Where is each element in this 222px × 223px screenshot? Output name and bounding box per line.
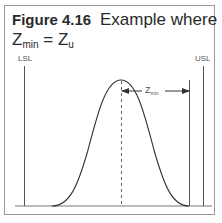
normal-curve bbox=[52, 80, 189, 206]
distribution-diagram: LSL USL Zmin bbox=[0, 0, 222, 223]
usl-label: USL bbox=[195, 54, 211, 63]
zmin-label: Zmin bbox=[145, 85, 159, 96]
lsl-label: LSL bbox=[18, 54, 33, 63]
